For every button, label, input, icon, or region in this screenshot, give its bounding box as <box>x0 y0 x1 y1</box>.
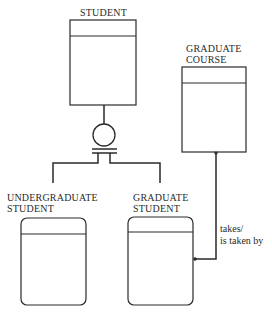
subtype-connector <box>53 105 160 183</box>
graduate-student-label-line2: STUDENT <box>133 203 180 214</box>
relationship-end-dot-top <box>214 151 217 154</box>
graduate-course-box <box>182 67 246 152</box>
diagram-canvas: STUDENT GRADUATE COURSE UNDERGRADUATE ST… <box>0 0 272 316</box>
graduate-student-box <box>128 217 193 305</box>
graduate-course-label-line2: COURSE <box>186 54 227 65</box>
entity-student: STUDENT <box>70 7 136 105</box>
entity-undergraduate-student: UNDERGRADUATE STUDENT <box>7 192 98 305</box>
relationship-line <box>194 152 216 259</box>
undergraduate-branch-line <box>53 153 98 183</box>
relationship-label-line2: is taken by <box>220 235 263 246</box>
graduate-course-label-line1: GRADUATE <box>186 43 242 54</box>
undergraduate-student-label-line2: STUDENT <box>7 203 54 214</box>
relationship-takes: takes/ is taken by <box>193 151 263 260</box>
graduate-branch-line <box>110 153 160 183</box>
student-box <box>70 20 136 105</box>
entity-graduate-course: GRADUATE COURSE <box>182 43 246 152</box>
student-label: STUDENT <box>80 7 127 18</box>
subtype-circle-icon <box>93 124 115 146</box>
relationship-end-dot-bottom <box>193 257 197 261</box>
entity-graduate-student: GRADUATE STUDENT <box>128 192 193 305</box>
undergraduate-student-label-line1: UNDERGRADUATE <box>7 192 98 203</box>
relationship-label-line1: takes/ <box>220 223 244 234</box>
graduate-student-label-line1: GRADUATE <box>133 192 189 203</box>
undergraduate-student-box <box>21 218 86 305</box>
